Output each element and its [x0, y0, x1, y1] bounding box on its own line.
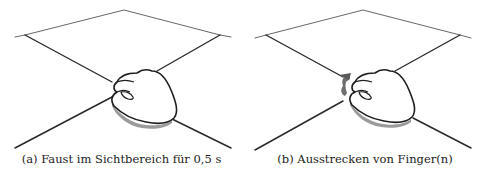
extending-hand-icon	[350, 70, 415, 128]
caption-a-text: (a) Faust im Sichtbereich für 0,5 s	[22, 152, 222, 166]
subfigure-a: (a) Faust im Sichtbereich für 0,5 s	[0, 0, 243, 179]
finger-extension-illustration	[243, 0, 487, 152]
caption-b: (b) Ausstrecken von Finger(n)	[243, 152, 487, 166]
caption-b-text: (b) Ausstrecken von Finger(n)	[277, 152, 452, 166]
caption-a: (a) Faust im Sichtbereich für 0,5 s	[0, 152, 243, 166]
fist-hand-icon	[112, 70, 177, 129]
fist-gesture-illustration	[0, 0, 243, 152]
subfigure-b: (b) Ausstrecken von Finger(n)	[243, 0, 487, 179]
